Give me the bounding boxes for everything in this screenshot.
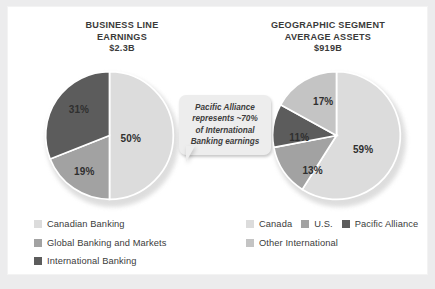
legend-label: Other International: [259, 238, 338, 248]
business-line-earnings-pie: 50% 19% 31%: [43, 69, 176, 202]
legend-row: Other International: [246, 238, 427, 248]
legend-swatch-icon: [342, 220, 350, 228]
legend-label: Canada: [259, 219, 292, 229]
legend-row: Global Banking and Markets: [34, 238, 175, 248]
legend-label: International Banking: [47, 256, 136, 266]
legend-swatch-icon: [246, 220, 254, 228]
legend-row: International Banking: [34, 256, 175, 266]
slice-label-pacific-alliance: 11%: [289, 131, 309, 142]
legend-row: Canadian Banking: [34, 219, 175, 229]
legend-swatch-icon: [34, 220, 42, 228]
chart-card: BUSINESS LINE EARNINGS $2.3B GEOGRAPHIC …: [8, 7, 427, 274]
infographic-page: BUSINESS LINE EARNINGS $2.3B GEOGRAPHIC …: [0, 0, 435, 289]
slice-label-us: 13%: [302, 165, 322, 176]
right-chart-title: GEOGRAPHIC SEGMENT AVERAGE ASSETS $919B: [238, 20, 418, 55]
legend-item-pacific-alliance[interactable]: Pacific Alliance: [342, 219, 419, 229]
callout-line1: Pacific Alliance: [195, 103, 255, 112]
callout-tail: [186, 146, 195, 162]
left-chart-title: BUSINESS LINE EARNINGS $2.3B: [32, 20, 212, 55]
legend-item-canadian-banking[interactable]: Canadian Banking: [34, 219, 125, 229]
slice-label-international-banking: 31%: [69, 103, 89, 114]
callout-line4: Banking earnings: [191, 137, 260, 146]
right-chart-legend: Canada U.S. Pacific Alliance Other Inter…: [246, 219, 427, 256]
right-chart-amount: $919B: [238, 43, 418, 55]
legend-label: Global Banking and Markets: [47, 238, 166, 248]
legend-swatch-icon: [301, 220, 309, 228]
slice-label-canadian-banking: 50%: [121, 133, 141, 144]
legend-item-international-banking[interactable]: International Banking: [34, 256, 136, 266]
legend-label: Canadian Banking: [47, 219, 125, 229]
legend-item-global-banking-and-markets[interactable]: Global Banking and Markets: [34, 238, 166, 248]
left-chart-title-line2: EARNINGS: [97, 32, 147, 42]
slice-label-other-international: 17%: [313, 95, 333, 106]
geographic-segment-assets-pie: 59% 13% 11% 17%: [270, 69, 403, 202]
legend-row: Canada U.S. Pacific Alliance: [246, 219, 427, 229]
right-chart-title-line1: GEOGRAPHIC SEGMENT: [271, 20, 385, 30]
left-chart-title-line1: BUSINESS LINE: [86, 20, 159, 30]
legend-swatch-icon: [246, 239, 254, 247]
pie-slices: [43, 69, 176, 202]
legend-item-canada[interactable]: Canada: [246, 219, 292, 229]
right-chart-title-line2: AVERAGE ASSETS: [285, 32, 371, 42]
legend-swatch-icon: [34, 239, 42, 247]
left-chart-amount: $2.3B: [32, 43, 212, 55]
legend-label: Pacific Alliance: [355, 219, 419, 229]
legend-item-us[interactable]: U.S.: [301, 219, 332, 229]
slice-label-global-banking: 19%: [74, 166, 94, 177]
legend-item-other-international[interactable]: Other International: [246, 238, 338, 248]
pie-svg: [43, 69, 176, 202]
pie-slice: [110, 72, 174, 200]
legend-swatch-icon: [34, 257, 42, 265]
callout-line2: represents ~70%: [192, 114, 257, 123]
left-chart-legend: Canadian Banking Global Banking and Mark…: [34, 219, 175, 275]
legend-label: U.S.: [314, 219, 332, 229]
callout-line3: of International: [195, 126, 254, 135]
slice-label-canada: 59%: [353, 143, 373, 154]
